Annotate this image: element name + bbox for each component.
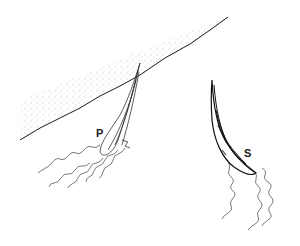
label-p: P — [96, 127, 103, 139]
label-s: S — [244, 147, 251, 159]
organism-s-trails — [222, 162, 273, 230]
organism-s — [211, 80, 256, 174]
organism-p-trails — [38, 145, 125, 188]
illustration-canvas — [0, 0, 300, 246]
